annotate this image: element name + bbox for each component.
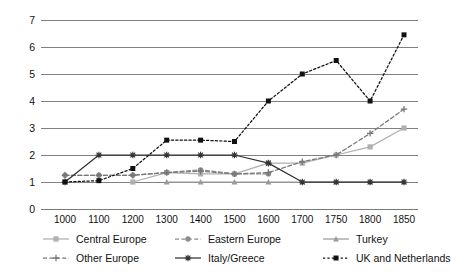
series-uk-and-netherlands xyxy=(63,32,407,184)
legend-marker-circle-icon xyxy=(173,233,203,245)
x-tick-label-1500: 1500 xyxy=(223,215,245,225)
y-tick-label-6: 6 xyxy=(29,42,35,53)
legend-item-turkey[interactable]: Turkey xyxy=(321,230,435,248)
legend-marker-square-icon xyxy=(41,233,71,245)
y-tick-label-0: 0 xyxy=(29,204,35,215)
legend-item-italy-greece[interactable]: Italy/Greece xyxy=(173,249,321,267)
legend-item-central-europe[interactable]: Central Europe xyxy=(41,230,173,248)
x-tick-label-1700: 1700 xyxy=(291,215,313,225)
legend-row-2: Other EuropeItaly/GreeceUK and Netherlan… xyxy=(41,249,435,267)
x-tick-label-1800: 1800 xyxy=(359,215,381,225)
legend-item-uk-and-netherlands[interactable]: UK and Netherlands xyxy=(321,249,435,267)
y-tick-label-7: 7 xyxy=(29,15,35,26)
legend-marker-plus-icon xyxy=(41,252,71,264)
x-tick-label-1850: 1850 xyxy=(393,215,415,225)
legend-label: Eastern Europe xyxy=(208,233,281,245)
y-tick-label-4: 4 xyxy=(29,96,35,107)
y-tick-label-2: 2 xyxy=(29,150,35,161)
legend-item-eastern-europe[interactable]: Eastern Europe xyxy=(173,230,321,248)
y-tick-label-5: 5 xyxy=(29,69,35,80)
legend-row-1: Central EuropeEastern EuropeTurkey xyxy=(41,230,435,248)
legend-marker-filled-square-icon xyxy=(321,252,351,264)
x-tick-label-1000: 1000 xyxy=(54,215,76,225)
legend-marker-triangle-icon xyxy=(321,233,351,245)
legend-label: Other Europe xyxy=(76,252,139,264)
x-tick-label-1100: 1100 xyxy=(88,215,110,225)
series-layer xyxy=(41,20,418,209)
legend-label: Turkey xyxy=(356,233,388,245)
x-tick-label-1300: 1300 xyxy=(156,215,178,225)
chart-legend: Central EuropeEastern EuropeTurkey Other… xyxy=(41,230,435,270)
x-tick-label-1600: 1600 xyxy=(257,215,279,225)
plot-area: 01234567 1000110012001300140015001600170… xyxy=(41,20,418,209)
y-tick-label-1: 1 xyxy=(29,177,35,188)
x-tick-label-1200: 1200 xyxy=(122,215,144,225)
x-tick-label-1400: 1400 xyxy=(189,215,211,225)
gridline-0 xyxy=(41,209,418,210)
legend-label: UK and Netherlands xyxy=(356,252,451,264)
legend-item-other-europe[interactable]: Other Europe xyxy=(41,249,173,267)
x-tick-label-1750: 1750 xyxy=(325,215,347,225)
legend-label: Central Europe xyxy=(76,233,147,245)
y-tick-label-3: 3 xyxy=(29,123,35,134)
legend-label: Italy/Greece xyxy=(208,252,265,264)
legend-marker-star-icon xyxy=(173,252,203,264)
